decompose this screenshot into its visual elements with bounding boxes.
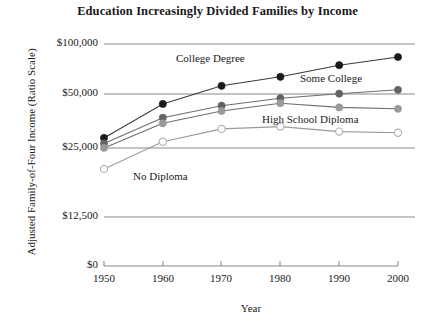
series-label-college-degree: College Degree (176, 52, 245, 64)
data-point (394, 86, 401, 93)
chart-figure: Education Increasingly Divided Families … (0, 0, 435, 327)
data-point (336, 90, 343, 97)
data-point (394, 129, 401, 136)
data-point (336, 104, 343, 111)
data-point (218, 82, 225, 89)
data-point (394, 53, 401, 60)
data-point (100, 144, 107, 151)
data-point (277, 100, 284, 107)
data-point (394, 105, 401, 112)
data-point (218, 107, 225, 114)
data-point (159, 138, 166, 145)
axis-lines (104, 261, 398, 266)
series-label-high-school-diploma: High School Diploma (262, 113, 359, 125)
data-point (336, 128, 343, 135)
series-line (104, 57, 398, 138)
data-point (336, 62, 343, 69)
series-label-some-college: Some College (300, 72, 362, 84)
plot-area (0, 0, 435, 327)
data-point (218, 125, 225, 132)
data-point (100, 165, 107, 172)
data-point (277, 73, 284, 80)
data-point (159, 100, 166, 107)
series-label-no-diploma: No Diploma (133, 170, 188, 182)
data-point (159, 120, 166, 127)
series-line (104, 103, 398, 148)
gridlines (104, 44, 415, 217)
